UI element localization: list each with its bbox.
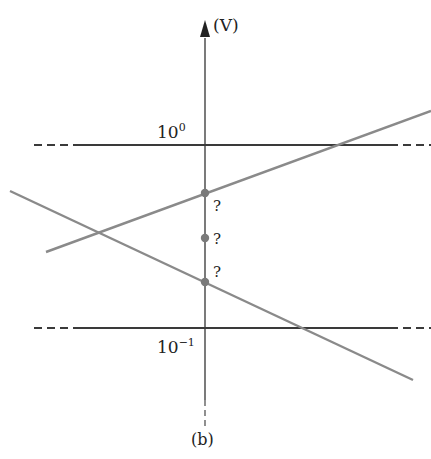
upper-level-base: 10: [157, 122, 179, 142]
axis-arrow-icon: [200, 20, 210, 37]
point-middle: [201, 234, 209, 242]
point-lower-label: ?: [213, 263, 221, 281]
axis-unit-label: (V): [213, 15, 239, 35]
lower-level-base: 10: [157, 337, 179, 357]
ascending-line: [46, 111, 431, 252]
lower-level-label: 10−1: [157, 336, 195, 357]
point-upper: [201, 189, 209, 197]
diagram-canvas: (V) 100 10−1 ? ? ? (b): [0, 0, 431, 459]
upper-level-label: 100: [157, 121, 186, 142]
point-lower: [201, 278, 209, 286]
figure-caption: (b): [191, 430, 214, 449]
lower-level-exponent: −1: [179, 336, 195, 349]
point-middle-label: ?: [213, 230, 221, 248]
point-upper-label: ?: [213, 197, 221, 215]
descending-line: [10, 191, 413, 380]
upper-level-exponent: 0: [179, 121, 186, 134]
